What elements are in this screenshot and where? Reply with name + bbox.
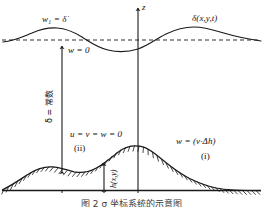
diagram-canvas <box>0 0 263 207</box>
z-axis-label: z <box>142 3 146 12</box>
delta-function-label: δ(x,y,t) <box>192 14 217 23</box>
w-flux-label: w = (v·Δh) <box>176 137 216 146</box>
no-slip-condition-label: u = v = w = 0 <box>70 130 122 139</box>
surface-velocity-label: w₁ = δ̇ <box>42 15 67 24</box>
figure-container: z w₁ = δ̇ δ(x,y,t) w = 0 δ = 常数 u = v = … <box>0 0 263 207</box>
free-surface-curve <box>3 27 261 52</box>
case-ii-label: (ii) <box>74 144 85 153</box>
figure-caption: 图 2 σ 坐标系统的示意图 <box>0 197 263 207</box>
case-i-label: (i) <box>201 152 210 161</box>
terrain-height-label: h(x,y) <box>110 170 118 188</box>
terrain-hatching <box>2 146 260 195</box>
w-zero-label: w = 0 <box>68 46 90 55</box>
terrain-profile-curve <box>2 146 261 191</box>
delta-constant-label: δ = 常数 <box>46 90 54 123</box>
